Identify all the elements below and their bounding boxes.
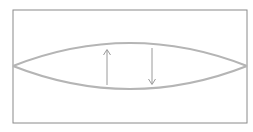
lens-diagram — [0, 0, 253, 132]
frame-rectangle — [13, 10, 247, 123]
up-arrow-icon — [104, 50, 111, 86]
upper-curve — [13, 43, 247, 66]
down-arrow-icon — [149, 48, 156, 85]
lower-curve — [13, 66, 247, 89]
